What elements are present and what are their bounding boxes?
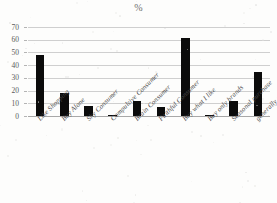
scan-noise-speck <box>119 15 121 17</box>
y-tick-mark <box>24 78 27 79</box>
scan-noise-speck <box>243 23 245 25</box>
y-tick-label: 10 <box>0 100 19 107</box>
bar <box>181 38 190 116</box>
x-axis-labels: Like ShoppingBuy AloneShy ConsumerCompul… <box>28 117 270 203</box>
scan-noise-speck <box>30 17 31 18</box>
scan-noise-speck <box>270 31 272 33</box>
y-tick-label: 70 <box>0 24 19 31</box>
scan-noise-speck <box>22 55 23 56</box>
y-tick-mark <box>24 40 27 41</box>
chart-title: % <box>0 2 277 13</box>
y-tick-mark <box>24 65 27 66</box>
y-tick-label: 30 <box>0 74 19 81</box>
y-tick-label: 60 <box>0 36 19 43</box>
y-tick-label: 40 <box>0 62 19 69</box>
y-tick-mark <box>24 103 27 104</box>
scan-noise-speck <box>15 139 17 141</box>
y-tick-label: 50 <box>0 49 19 56</box>
y-tick-label: 20 <box>0 87 19 94</box>
bar-chart: % 706050403020100 Like ShoppingBuy Alone… <box>0 0 277 203</box>
scan-noise-speck <box>0 125 1 126</box>
y-tick-mark <box>24 52 27 53</box>
scan-noise-speck <box>7 155 9 157</box>
scan-noise-speck <box>25 48 26 49</box>
bar <box>36 55 45 116</box>
y-tick-label: 0 <box>0 113 19 120</box>
y-tick-mark <box>24 91 27 92</box>
y-tick-mark <box>24 116 27 117</box>
y-tick-mark <box>24 27 27 28</box>
